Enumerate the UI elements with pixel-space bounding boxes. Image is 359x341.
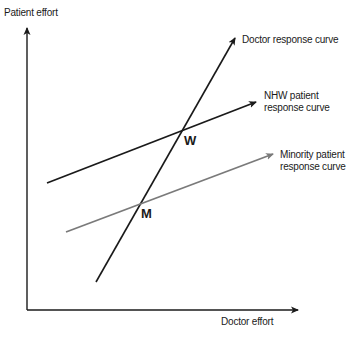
minority-curve-label: Minority patient response curve [280, 149, 346, 173]
y-axis-label: Patient effort [4, 7, 58, 19]
doctor-curve-label: Doctor response curve [242, 34, 338, 46]
doctor-response-curve [96, 38, 235, 282]
equilibrium-point-w: W [184, 134, 196, 147]
minority-curve-label-line2: response curve [280, 161, 346, 173]
x-axis-label: Doctor effort [221, 316, 273, 328]
diagram-canvas: Patient effort Doctor effort Doctor resp… [0, 0, 359, 341]
nhw-curve-label: NHW patient response curve [264, 90, 330, 114]
equilibrium-point-m: M [141, 207, 152, 220]
minority-patient-response-curve [66, 154, 273, 232]
nhw-curve-label-line2: response curve [264, 102, 330, 114]
minority-curve-label-line1: Minority patient [280, 149, 346, 161]
nhw-curve-label-line1: NHW patient [264, 90, 330, 102]
nhw-patient-response-curve [47, 102, 256, 183]
